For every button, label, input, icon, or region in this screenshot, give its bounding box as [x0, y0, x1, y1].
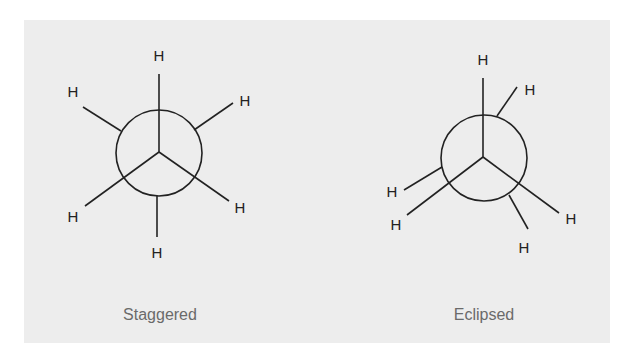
eclipsed-atom-back-top: H [525, 81, 536, 98]
eclipsed-atom-back-right: H [519, 239, 530, 256]
eclipsed-atom-front-lower-left: H [391, 216, 402, 233]
staggered-front-bond-lower-left [85, 152, 159, 206]
staggered-atom-back-upper-right: H [240, 92, 251, 109]
staggered-atom-front-lower-right: H [235, 199, 246, 216]
staggered-caption: Staggered [123, 306, 197, 323]
staggered-atom-back-bottom: H [152, 244, 163, 261]
newman-projections: H H H H H H Staggered H H H H H H Eclips… [0, 0, 630, 356]
eclipsed-atom-front-lower-right: H [566, 210, 577, 227]
eclipsed-back-bond-top [497, 87, 517, 116]
eclipsed-back-bond-left [404, 167, 442, 190]
eclipsed-atom-back-left: H [387, 183, 398, 200]
staggered-back-bond-upper-right [194, 103, 233, 130]
eclipsed-projection: H H H H H H Eclipsed [387, 51, 577, 323]
eclipsed-back-bond-right [509, 195, 528, 229]
staggered-atom-front-lower-left: H [68, 208, 79, 225]
eclipsed-caption: Eclipsed [454, 306, 514, 323]
eclipsed-atom-front-top: H [478, 51, 489, 68]
staggered-front-bond-lower-right [159, 152, 229, 201]
staggered-atom-front-top: H [154, 47, 165, 64]
eclipsed-front-bond-lower-right [483, 157, 559, 213]
eclipsed-front-bond-lower-left [407, 157, 483, 215]
staggered-projection: H H H H H H Staggered [68, 47, 251, 323]
staggered-atom-back-upper-left: H [68, 83, 79, 100]
staggered-back-bond-upper-left [83, 107, 121, 131]
